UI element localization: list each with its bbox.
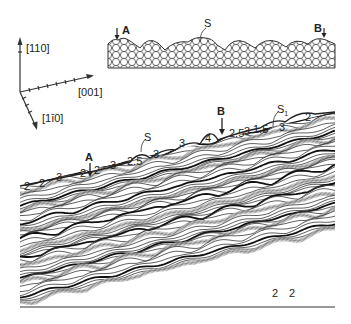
step-label: 2 — [94, 165, 100, 176]
surface-label-b: B — [217, 106, 225, 117]
step-label: 3 — [153, 149, 159, 160]
step-label: 3 — [179, 138, 185, 149]
step-label: 3 — [279, 122, 285, 133]
step-label: 2 — [24, 181, 30, 192]
step-label: 2 — [289, 288, 295, 299]
surface-label-s: S — [144, 132, 151, 143]
step-label: 2 — [39, 178, 45, 189]
step-label: 2 — [80, 168, 86, 179]
surface-label-s1: S1 — [277, 104, 288, 119]
step-label: 2 — [272, 288, 278, 299]
step-label: 2.5 — [229, 128, 244, 139]
step-label: 3 — [56, 172, 62, 183]
step-label: 3 — [110, 160, 116, 171]
step-label: 2.5 — [127, 156, 142, 167]
step-label: 3 — [244, 126, 250, 137]
step-label: 4 — [205, 133, 211, 144]
surface-topography-plot — [0, 0, 351, 324]
step-label: 1.5 — [253, 124, 268, 135]
step-label: 2 — [305, 112, 311, 123]
surface-label-a: A — [85, 152, 93, 163]
